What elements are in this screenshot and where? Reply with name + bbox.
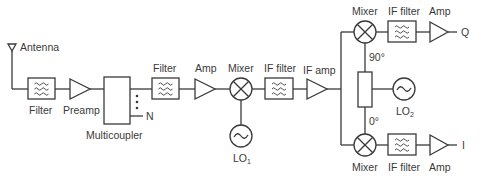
if-filter-q-block [388,21,416,42]
lo-1-label: LO1 [233,153,251,165]
multicoupler-block [104,77,138,124]
mixer-1-icon [230,78,252,100]
amp-q-label: Amp [429,6,451,17]
mixer-q-label: Mixer [352,6,378,17]
filter-1-block [28,78,55,99]
phase-splitter-block [358,72,372,107]
multicoupler-label: Multicoupler [86,130,143,141]
mixer-i-label: Mixer [352,162,378,173]
if-filter-i-label: IF filter [388,162,420,173]
amp-1-label: Amp [195,63,217,74]
mixer-i-icon [354,134,376,156]
preamp-amplifier-icon [70,79,90,99]
if-amp-label: IF amp [303,65,336,76]
if-filter-1-label: IF filter [264,63,296,74]
preamp-label: Preamp [63,105,100,116]
if-filter-q-label: IF filter [388,6,420,17]
amp-1-amplifier-icon [195,79,215,99]
lo-2-label: LO2 [396,106,414,118]
phase-90-label: 90° [369,52,385,63]
antenna-icon [8,44,16,89]
mixer-1-label: Mixer [228,63,254,74]
lo-1-oscillator-icon [230,125,252,147]
mixer-q-icon [354,21,376,43]
if-filter-i-block [388,134,416,155]
if-filter-1-block [265,78,293,99]
i-output-label: I [462,140,465,151]
filter-2-block [152,78,179,99]
lo-2-oscillator-icon [393,78,415,100]
filter-2-label: Filter [153,63,176,74]
n-outputs-label: N [146,111,154,122]
amp-q-amplifier-icon [430,22,448,42]
q-output-label: Q [461,27,469,38]
phase-0-label: 0° [369,116,379,127]
antenna-label: Antenna [20,42,59,53]
amp-i-label: Amp [429,162,451,173]
amp-i-amplifier-icon [430,135,448,155]
receiver-block-diagram: Antenna Filter Preamp Multicoupler N Fil… [0,0,480,183]
filter-1-label: Filter [29,105,52,116]
if-amp-amplifier-icon [307,79,327,99]
